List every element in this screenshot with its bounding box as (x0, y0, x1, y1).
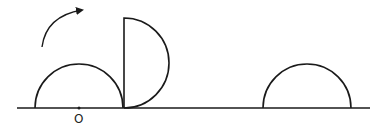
semicircle-rotated (124, 18, 169, 108)
origin-point (78, 107, 81, 110)
semicircle-final (263, 64, 351, 108)
rotation-arrow-icon (42, 10, 82, 47)
semicircle-initial (35, 64, 123, 108)
diagram-svg (0, 0, 386, 132)
origin-label: O (74, 112, 83, 126)
diagram-canvas: O (0, 0, 386, 132)
